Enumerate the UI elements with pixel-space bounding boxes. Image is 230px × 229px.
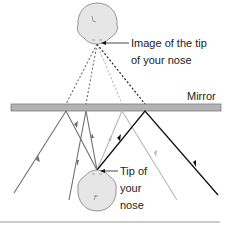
tip-label-line2: your [120,181,141,196]
image-label-line2: of your nose [131,53,192,68]
image-label-line1: Image of the tip [131,36,207,51]
tip-label-line1: Tip of [120,164,147,179]
mirror-label: Mirror [187,89,216,104]
mirror-bar [11,104,221,111]
ray-arrowheads [36,121,196,167]
reflection-diagram [0,0,230,229]
tip-label-line3: nose [120,198,144,213]
image-head [77,3,117,44]
real-head [78,170,116,211]
